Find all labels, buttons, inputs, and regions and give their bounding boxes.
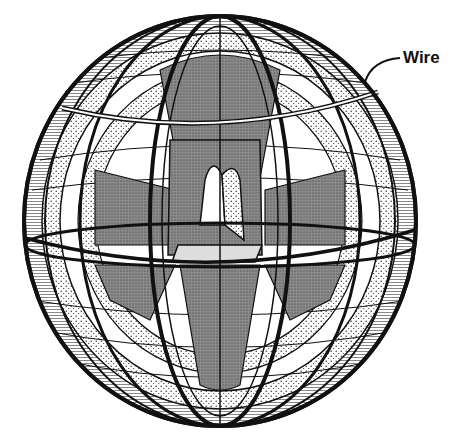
central-core — [168, 140, 262, 262]
sphere-cutaway-diagram — [0, 0, 460, 441]
wire-leader-line — [365, 58, 400, 82]
wire-label: Wire — [403, 48, 440, 68]
